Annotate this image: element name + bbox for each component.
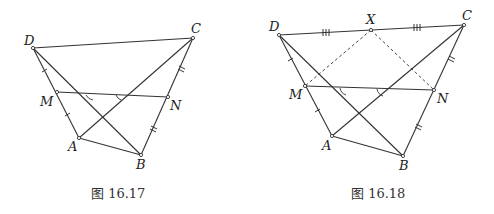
point-A [77,136,80,139]
double-tick-CN [178,66,185,72]
label-A: A [67,139,77,154]
caption-figure-16-17: 图 16.17 [91,186,145,201]
figure-16-17: D C M N A B 图 16.17 [23,21,201,201]
angle-arc-DB [86,95,93,100]
angle-arc-DB [340,88,346,95]
caption-figure-16-18: 图 16.18 [351,186,405,201]
segment-MN [305,86,434,90]
segment-MN [57,92,168,97]
angle-arc-AC [116,95,121,100]
point-M [55,90,58,93]
label-N: N [169,98,182,113]
label-X: X [365,12,376,27]
geometry-figures: D C M N A B 图 16.17 [0,0,494,214]
angle-arc-AC [377,89,383,96]
label-C: C [191,21,201,36]
label-B: B [398,158,409,173]
label-A: A [321,138,331,153]
segment-DC [33,38,193,48]
label-N: N [436,91,449,106]
dashed-segment-XM [305,30,371,86]
dashed-segment-XN [371,30,434,90]
label-B: B [135,157,146,172]
figure-16-18: D X C M N A B 图 16.18 [268,8,472,201]
label-M: M [288,87,303,102]
segment-AC [79,38,193,138]
point-M [303,84,306,87]
label-D: D [23,33,35,48]
label-C: C [462,8,472,23]
point-C [462,23,465,26]
label-M: M [39,94,54,109]
point-C [191,36,194,39]
segment-AC [332,25,464,136]
point-X [369,28,372,31]
label-D: D [268,19,280,34]
point-N [432,88,435,91]
